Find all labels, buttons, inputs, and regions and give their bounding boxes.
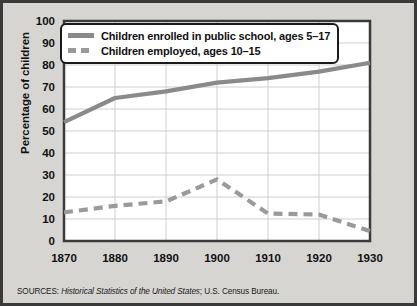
legend-label-enrolled: Children enrolled in public school, ages… xyxy=(101,30,330,42)
chart-figure: Percentage of children 100 90 80 70 60 5… xyxy=(0,0,417,306)
chart-area: Percentage of children 100 90 80 70 60 5… xyxy=(3,3,414,303)
chart-legend: Children enrolled in public school, ages… xyxy=(60,23,339,64)
legend-swatch-solid-icon xyxy=(68,33,94,38)
legend-swatch-dashed-icon xyxy=(68,48,94,53)
source-suffix: ; U.S. Census Bureau. xyxy=(200,287,279,296)
legend-item-employed: Children employed, ages 10–15 xyxy=(68,43,330,58)
legend-label-employed: Children employed, ages 10–15 xyxy=(101,45,261,57)
legend-item-enrolled: Children enrolled in public school, ages… xyxy=(68,28,330,43)
source-note: SOURCES: Historical Statistics of the Un… xyxy=(17,287,279,296)
source-prefix: SOURCES: xyxy=(17,287,61,296)
source-title: Historical Statistics of the United Stat… xyxy=(61,287,200,296)
